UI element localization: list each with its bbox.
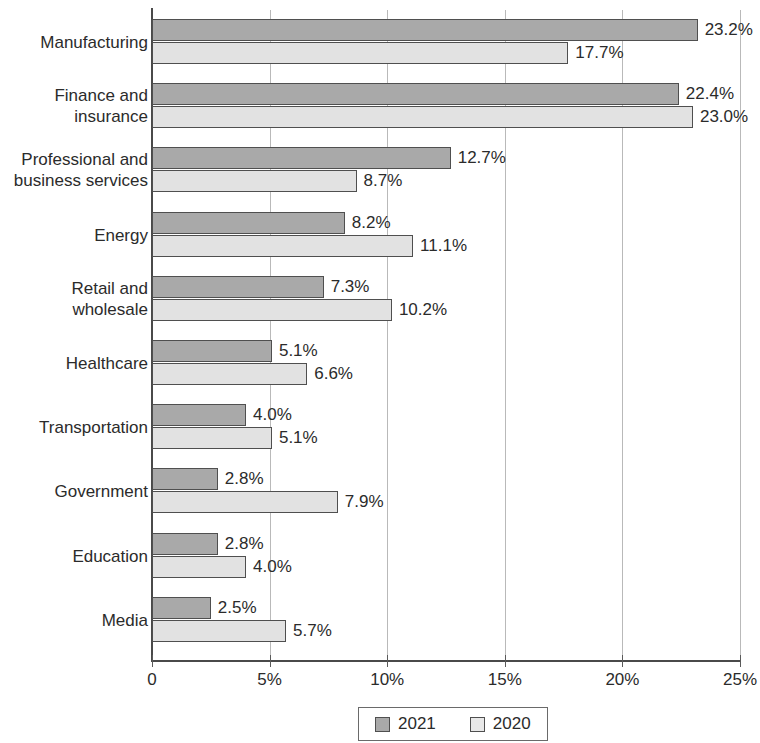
- bar-value-label: 5.1%: [272, 428, 318, 448]
- category-row: Media2.5%5.7%: [0, 597, 760, 643]
- bar-chart: 05%10%15%20%25% Manufacturing23.2%17.7%F…: [0, 0, 760, 743]
- bar-2021[interactable]: [152, 212, 345, 234]
- bar-track: 2.8%: [152, 533, 740, 555]
- bar-value-label: 12.7%: [451, 148, 506, 168]
- category-row: Retail and wholesale7.3%10.2%: [0, 276, 760, 322]
- bar-2021[interactable]: [152, 468, 218, 490]
- bar-value-label: 5.1%: [272, 341, 318, 361]
- x-tick-label: 0: [147, 670, 156, 690]
- legend-swatch-icon-2021: [375, 717, 390, 732]
- bar-track: 10.2%: [152, 299, 740, 321]
- bar-track: 6.6%: [152, 363, 740, 385]
- bar-2020[interactable]: [152, 299, 392, 321]
- bar-track: 4.0%: [152, 404, 740, 426]
- x-tick-mark: [622, 655, 623, 667]
- category-row: Finance and insurance22.4%23.0%: [0, 83, 760, 129]
- category-row: Transportation4.0%5.1%: [0, 404, 760, 450]
- x-tick-mark: [270, 655, 271, 667]
- category-row: Manufacturing23.2%17.7%: [0, 19, 760, 65]
- x-tick-mark: [505, 655, 506, 667]
- category-row: Professional and business services12.7%8…: [0, 147, 760, 193]
- bar-2021[interactable]: [152, 83, 679, 105]
- category-label: Transportation: [0, 417, 148, 438]
- category-label: Healthcare: [0, 353, 148, 374]
- category-label: Energy: [0, 224, 148, 245]
- bar-value-label: 2.8%: [218, 534, 264, 554]
- bar-2020[interactable]: [152, 106, 693, 128]
- bar-track: 22.4%: [152, 83, 740, 105]
- bar-track: 12.7%: [152, 147, 740, 169]
- bar-track: 7.3%: [152, 276, 740, 298]
- bar-2021[interactable]: [152, 276, 324, 298]
- legend-swatch-icon-2020: [470, 717, 485, 732]
- x-tick-label: 5%: [257, 670, 282, 690]
- x-tick-mark: [152, 655, 153, 667]
- bar-track: 23.0%: [152, 106, 740, 128]
- bar-track: 23.2%: [152, 19, 740, 41]
- category-label: Professional and business services: [0, 149, 148, 191]
- x-tick-label: 20%: [605, 670, 639, 690]
- x-tick-mark: [740, 655, 741, 667]
- bar-2020[interactable]: [152, 620, 286, 642]
- bar-2021[interactable]: [152, 597, 211, 619]
- bar-value-label: 4.0%: [246, 405, 292, 425]
- bar-value-label: 22.4%: [679, 84, 734, 104]
- chart-legend: 2021 2020: [358, 707, 548, 741]
- bar-value-label: 7.9%: [338, 492, 384, 512]
- category-label: Education: [0, 545, 148, 566]
- bar-2020[interactable]: [152, 235, 413, 257]
- bar-2020[interactable]: [152, 556, 246, 578]
- legend-label-2020: 2020: [493, 714, 531, 734]
- bar-track: 8.2%: [152, 212, 740, 234]
- bar-value-label: 6.6%: [307, 364, 353, 384]
- bar-value-label: 2.5%: [211, 598, 257, 618]
- category-row: Government2.8%7.9%: [0, 468, 760, 514]
- bar-value-label: 8.2%: [345, 213, 391, 233]
- category-label: Finance and insurance: [0, 85, 148, 127]
- bar-2020[interactable]: [152, 491, 338, 513]
- category-row: Education2.8%4.0%: [0, 533, 760, 579]
- bar-track: 5.7%: [152, 620, 740, 642]
- x-tick-label: 15%: [488, 670, 522, 690]
- bar-2020[interactable]: [152, 363, 307, 385]
- bar-value-label: 7.3%: [324, 277, 370, 297]
- bar-2021[interactable]: [152, 404, 246, 426]
- legend-item-2020[interactable]: 2020: [470, 714, 531, 734]
- bar-track: 11.1%: [152, 235, 740, 257]
- bar-value-label: 4.0%: [246, 557, 292, 577]
- bar-2021[interactable]: [152, 533, 218, 555]
- bar-track: 8.7%: [152, 170, 740, 192]
- bar-2021[interactable]: [152, 19, 698, 41]
- category-row: Energy8.2%11.1%: [0, 212, 760, 258]
- bar-2020[interactable]: [152, 427, 272, 449]
- bar-track: 2.8%: [152, 468, 740, 490]
- bar-track: 5.1%: [152, 340, 740, 362]
- x-tick-label: 25%: [723, 670, 757, 690]
- x-axis-line: [152, 660, 741, 662]
- bar-2020[interactable]: [152, 170, 357, 192]
- bar-value-label: 5.7%: [286, 621, 332, 641]
- bar-2020[interactable]: [152, 42, 568, 64]
- bar-value-label: 2.8%: [218, 469, 264, 489]
- category-label: Manufacturing: [0, 32, 148, 53]
- bar-value-label: 10.2%: [392, 300, 447, 320]
- bar-value-label: 8.7%: [357, 171, 403, 191]
- x-tick-mark: [387, 655, 388, 667]
- legend-label-2021: 2021: [398, 714, 436, 734]
- category-label: Retail and wholesale: [0, 278, 148, 320]
- category-label: Government: [0, 481, 148, 502]
- category-label: Media: [0, 609, 148, 630]
- bar-track: 7.9%: [152, 491, 740, 513]
- bar-track: 5.1%: [152, 427, 740, 449]
- bar-value-label: 11.1%: [413, 236, 467, 256]
- bar-track: 2.5%: [152, 597, 740, 619]
- bar-track: 4.0%: [152, 556, 740, 578]
- bar-2021[interactable]: [152, 147, 451, 169]
- bar-value-label: 23.2%: [698, 20, 753, 40]
- bar-track: 17.7%: [152, 42, 740, 64]
- bar-value-label: 23.0%: [693, 107, 748, 127]
- bar-value-label: 17.7%: [568, 43, 623, 63]
- bar-2021[interactable]: [152, 340, 272, 362]
- category-row: Healthcare5.1%6.6%: [0, 340, 760, 386]
- legend-item-2021[interactable]: 2021: [375, 714, 436, 734]
